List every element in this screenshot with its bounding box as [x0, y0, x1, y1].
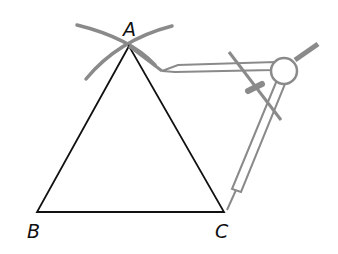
vertex-label-c: C [215, 222, 228, 241]
diagram-svg [0, 0, 338, 254]
vertex-label-a: A [123, 20, 136, 39]
diagram-canvas: A B C [0, 0, 338, 254]
vertex-label-b: B [27, 222, 40, 241]
construction-arc-1 [77, 25, 155, 65]
compass-icon [129, 44, 318, 210]
